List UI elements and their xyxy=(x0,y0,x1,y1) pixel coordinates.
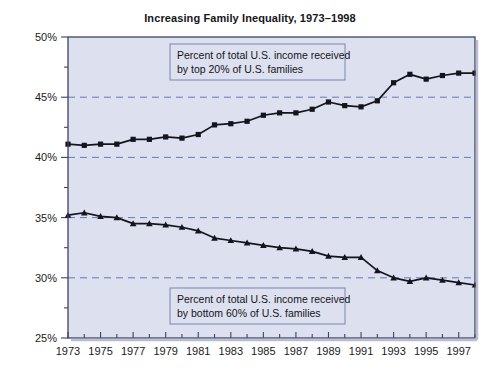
data-point-marker xyxy=(342,103,347,108)
data-point-marker xyxy=(375,98,380,103)
annotation-line-2: by bottom 60% of U.S. families xyxy=(177,307,321,319)
x-tick-label: 1989 xyxy=(316,345,340,357)
data-point-marker xyxy=(179,136,184,141)
data-point-marker xyxy=(277,110,282,115)
data-point-marker xyxy=(131,137,136,142)
data-point-marker xyxy=(326,99,331,104)
x-tick-label: 1993 xyxy=(381,345,405,357)
annotation-line-1: Percent of total U.S. income received xyxy=(177,49,350,61)
y-tick-label: 50% xyxy=(35,31,57,43)
data-point-marker xyxy=(163,134,168,139)
y-tick-label: 35% xyxy=(35,212,57,224)
data-point-marker xyxy=(228,121,233,126)
data-point-marker xyxy=(212,122,217,127)
x-tick-label: 1979 xyxy=(153,345,177,357)
data-point-marker xyxy=(98,142,103,147)
data-point-marker xyxy=(310,107,315,112)
data-point-marker xyxy=(391,80,396,85)
y-tick-label: 25% xyxy=(35,332,57,344)
chart-figure: Increasing Family Inequality, 1973–1998 … xyxy=(0,0,500,375)
x-tick-label: 1987 xyxy=(284,345,308,357)
data-point-marker xyxy=(293,110,298,115)
data-point-marker xyxy=(424,77,429,82)
line-chart: 1973197519771979198119831985198719891991… xyxy=(0,0,500,375)
data-point-marker xyxy=(456,71,461,76)
x-axis-tick-labels: 1973197519771979198119831985198719891991… xyxy=(56,345,471,357)
data-point-marker xyxy=(440,73,445,78)
data-point-marker xyxy=(82,143,87,148)
data-point-marker xyxy=(407,72,412,77)
data-point-marker xyxy=(114,142,119,147)
data-point-marker xyxy=(196,132,201,137)
annotation-line-1: Percent of total U.S. income received xyxy=(177,293,350,305)
data-point-marker xyxy=(358,104,363,109)
x-tick-label: 1991 xyxy=(349,345,373,357)
x-tick-label: 1973 xyxy=(56,345,80,357)
data-point-marker xyxy=(244,119,249,124)
top-annotation: Percent of total U.S. income receivedby … xyxy=(170,44,350,80)
annotation-line-2: by top 20% of U.S. families xyxy=(177,63,303,75)
bottom-annotation: Percent of total U.S. income receivedby … xyxy=(170,288,350,324)
x-tick-label: 1981 xyxy=(186,345,210,357)
y-tick-label: 45% xyxy=(35,91,57,103)
x-tick-label: 1995 xyxy=(414,345,438,357)
x-tick-label: 1997 xyxy=(446,345,470,357)
x-tick-label: 1983 xyxy=(219,345,243,357)
x-tick-label: 1977 xyxy=(121,345,145,357)
y-tick-label: 30% xyxy=(35,272,57,284)
data-point-marker xyxy=(147,137,152,142)
data-point-marker xyxy=(261,113,266,118)
x-tick-label: 1985 xyxy=(251,345,275,357)
y-axis-tick-labels: 25%30%35%40%45%50% xyxy=(35,31,57,344)
x-tick-label: 1975 xyxy=(88,345,112,357)
y-tick-label: 40% xyxy=(35,151,57,163)
